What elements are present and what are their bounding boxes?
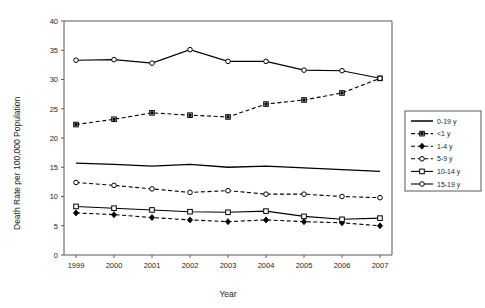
x-axis-title: Year (219, 289, 236, 299)
data-point-marker (340, 217, 345, 222)
data-point-marker (188, 209, 193, 214)
data-point-marker-core (151, 112, 153, 114)
data-point-marker (378, 195, 383, 200)
legend-label: 15-19 y (437, 181, 461, 189)
x-tick-label: 2007 (372, 261, 389, 270)
x-tick-label: 2001 (144, 261, 161, 270)
x-tick-label: 2005 (296, 261, 313, 270)
data-point-marker-core (113, 118, 115, 120)
data-point-marker (264, 59, 269, 64)
legend-label: 5-9 y (437, 155, 453, 163)
data-point-marker-core (189, 114, 191, 116)
data-point-marker-core (303, 99, 305, 101)
chart-legend: 0-19 y<1 y1-4 y5-9 y10-14 y15-19 y (405, 111, 481, 191)
data-point-marker (420, 182, 425, 187)
data-point-marker (340, 194, 345, 199)
data-point-marker (188, 47, 193, 52)
data-point-marker (112, 57, 117, 62)
y-tick-label: 5 (54, 222, 58, 231)
data-point-marker (226, 59, 231, 64)
x-tick-label: 2000 (106, 261, 123, 270)
data-point-marker (302, 214, 307, 219)
y-tick-label: 35 (50, 46, 58, 55)
data-point-marker (302, 192, 307, 197)
x-tick-label: 2003 (220, 261, 237, 270)
y-tick-label: 25 (50, 105, 58, 114)
data-point-marker-core (227, 116, 229, 118)
line-chart: 0510152025303540 19992000200120022003200… (0, 0, 485, 308)
data-point-marker (150, 187, 155, 192)
data-point-marker (112, 183, 117, 188)
data-point-marker (226, 188, 231, 193)
y-tick-label: 40 (50, 17, 58, 26)
data-point-marker (74, 204, 79, 209)
y-tick-label: 20 (50, 134, 58, 143)
data-point-marker (74, 180, 79, 185)
data-point-marker (264, 192, 269, 197)
y-tick-label: 10 (50, 192, 58, 201)
data-point-marker-core (265, 103, 267, 105)
x-axis-tick-labels: 199920002001200220032004200520062007 (68, 261, 389, 270)
data-point-marker (188, 190, 193, 195)
data-point-marker-core (421, 133, 423, 135)
data-point-marker (74, 58, 79, 63)
data-point-marker (150, 61, 155, 66)
chart-svg: 0510152025303540 19992000200120022003200… (0, 0, 485, 308)
data-point-marker (150, 208, 155, 213)
data-point-marker-core (75, 123, 77, 125)
x-tick-label: 2006 (334, 261, 351, 270)
data-point-marker (226, 210, 231, 215)
y-tick-label: 0 (54, 251, 58, 260)
legend-label: <1 y (437, 130, 451, 138)
data-point-marker (420, 157, 425, 162)
x-tick-label: 1999 (68, 261, 85, 270)
data-point-marker (378, 216, 383, 221)
legend-label: 10-14 y (437, 168, 461, 176)
legend-label: 0-19 y (437, 118, 457, 126)
legend-label: 1-4 y (437, 143, 453, 151)
y-axis-title: Death Rate per 100,000 Population (12, 96, 22, 230)
data-point-marker (378, 76, 383, 81)
data-point-marker (302, 68, 307, 73)
x-tick-label: 2004 (258, 261, 275, 270)
x-tick-label: 2002 (182, 261, 199, 270)
data-point-marker (340, 68, 345, 73)
data-point-marker (112, 206, 117, 211)
y-tick-label: 30 (50, 75, 58, 84)
data-point-marker (264, 209, 269, 214)
data-point-marker-core (341, 92, 343, 94)
data-point-marker (420, 169, 425, 174)
y-tick-label: 15 (50, 163, 58, 172)
